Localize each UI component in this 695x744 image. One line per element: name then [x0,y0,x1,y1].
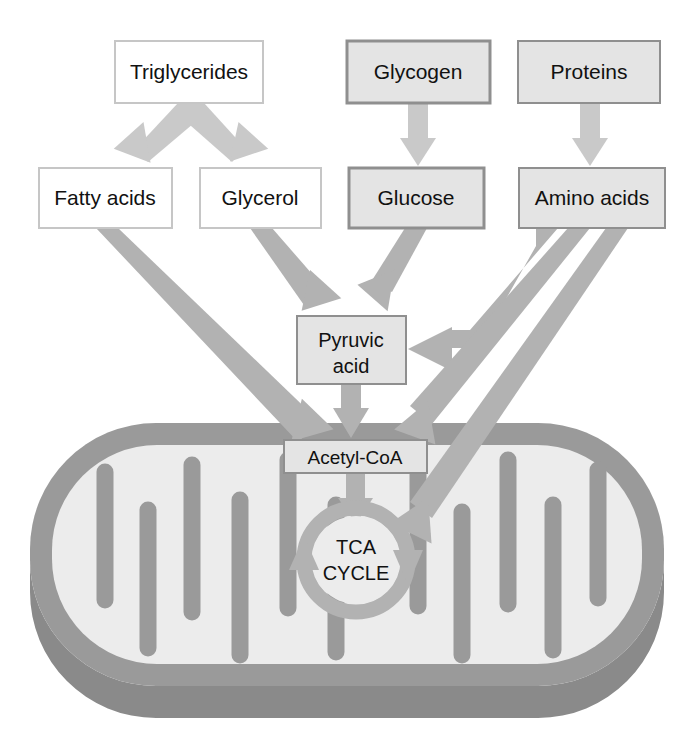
node-glycogen-label: Glycogen [374,60,463,83]
node-pyruvic-acid[interactable]: Pyruvic acid [297,316,406,384]
node-triglycerides[interactable]: Triglycerides [115,41,263,103]
node-pyruvic-acid-label-line2: acid [333,355,370,377]
tca-cycle-ring [289,508,423,612]
node-proteins-label: Proteins [550,60,627,83]
node-fatty-acids[interactable]: Fatty acids [39,168,172,228]
arrow-glycogen-to-glucose [400,103,436,166]
arrow-glycerol-to-pyruvic-acid [250,228,341,325]
node-tca-cycle-label-line2: CYCLE [323,562,390,584]
node-acetyl-coa[interactable]: Acetyl-CoA [284,440,427,473]
node-glycogen[interactable]: Glycogen [347,41,490,103]
node-glucose-label: Glucose [377,186,454,209]
arrow-glucose-to-pyruvic-acid [357,228,427,318]
diagram-canvas: Triglycerides Glycogen Proteins Fatty ac… [0,0,695,744]
node-fatty-acids-label: Fatty acids [54,186,156,209]
node-tca-cycle-label-line1: TCA [336,536,377,558]
node-glycerol[interactable]: Glycerol [200,168,321,228]
node-glucose[interactable]: Glucose [349,168,484,228]
arrow-triglycerides-to-glycerol [182,103,268,175]
node-pyruvic-acid-label-line1: Pyruvic [318,329,384,351]
node-acetyl-coa-label: Acetyl-CoA [307,447,402,468]
metabolism-diagram: Triglycerides Glycogen Proteins Fatty ac… [0,0,695,744]
node-amino-acids-label: Amino acids [535,186,649,209]
arrow-proteins-to-amino-acids [572,103,608,166]
node-amino-acids[interactable]: Amino acids [519,168,665,228]
node-triglycerides-label: Triglycerides [130,60,248,83]
node-proteins[interactable]: Proteins [518,41,660,103]
node-glycerol-label: Glycerol [221,186,298,209]
